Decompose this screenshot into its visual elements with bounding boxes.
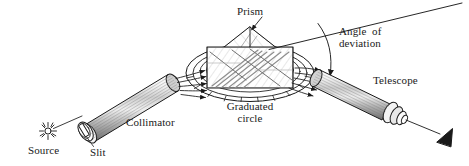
label-source: Source: [28, 145, 59, 157]
label-angle-of-deviation-line2: deviation: [339, 38, 381, 50]
figure-canvas: Source Slit Collimator Prism Graduated c…: [0, 0, 469, 166]
telescope-exit-ray: [406, 120, 440, 134]
label-angle-of-deviation-line1: Angle of: [339, 26, 381, 38]
sun-burst-icon: [40, 123, 57, 140]
label-telescope: Telescope: [373, 75, 418, 87]
prism-leader: [252, 17, 263, 30]
triangular-prism-icon: [207, 27, 293, 88]
eye-arrowhead-icon: [437, 129, 453, 147]
label-graduated-circle-line2: circle: [201, 113, 299, 125]
label-slit: Slit: [90, 147, 106, 159]
deviation-arc-icon: [318, 24, 331, 77]
label-prism: Prism: [237, 6, 263, 18]
collimator-tube-icon: [75, 72, 183, 146]
label-graduated-circle-line1: Graduated: [201, 101, 299, 113]
label-collimator: Collimator: [126, 117, 175, 129]
